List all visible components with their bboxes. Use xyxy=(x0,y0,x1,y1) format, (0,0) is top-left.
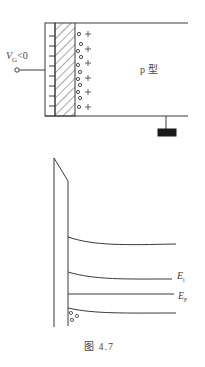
mos-structure xyxy=(15,23,188,136)
gate-terminal-icon xyxy=(15,68,19,72)
gate-voltage-label: VG<0 xyxy=(6,50,28,64)
ground-icon xyxy=(158,129,176,136)
surface-holes xyxy=(69,311,78,321)
positive-charges xyxy=(85,31,91,110)
conduction-band-ec xyxy=(68,237,176,245)
metal-gate xyxy=(45,23,55,116)
ei-label: Ei xyxy=(177,270,185,283)
oxide-layer xyxy=(55,23,75,116)
band-diagram xyxy=(54,158,176,327)
ef-label: EF xyxy=(178,290,187,303)
substrate-type-label: p 型 xyxy=(140,61,158,76)
figure-4-7 xyxy=(0,0,205,367)
figure-caption: 图 4.7 xyxy=(84,338,114,353)
accumulated-holes xyxy=(76,32,82,108)
valence-band-ev xyxy=(68,308,176,313)
intrinsic-level-ei xyxy=(68,272,172,279)
oxide-top-slope xyxy=(54,158,68,181)
